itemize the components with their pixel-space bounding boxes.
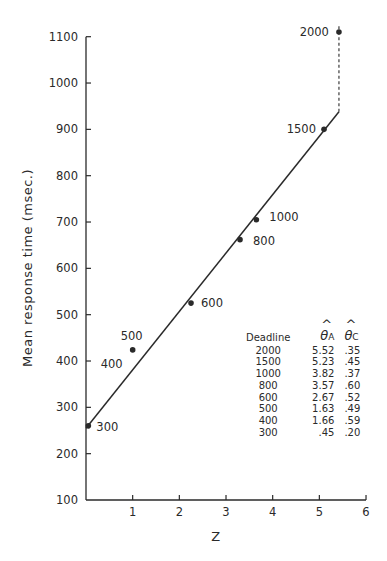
- cell-theta-c: .59: [340, 415, 370, 427]
- table-row: 10003.82.37: [246, 368, 370, 380]
- theta-hat-c: θ: [344, 330, 352, 342]
- table-body: 20005.52.35 15005.23.45 10003.82.37 8003…: [246, 345, 370, 439]
- cell-theta-c: .49: [340, 403, 370, 415]
- point-label-1500: 1500: [287, 122, 316, 136]
- cell-deadline: 500: [246, 403, 290, 415]
- data-point-600: [188, 300, 194, 306]
- y-axis-title: Mean response time (msec.): [20, 169, 35, 367]
- point-label-600: 600: [201, 296, 223, 310]
- cell-deadline: 400: [246, 415, 290, 427]
- y-tick-label: 100: [56, 493, 78, 507]
- table-row: 5001.63.49: [246, 403, 370, 415]
- y-tick-label: 300: [56, 400, 78, 414]
- point-label-2000: 2000: [300, 25, 329, 39]
- cell-theta-a: 3.57: [290, 380, 340, 392]
- x-tick-label: 6: [362, 505, 369, 519]
- y-tick-label: 1000: [49, 76, 78, 90]
- data-point-1500: [321, 127, 327, 133]
- cell-theta-a: 3.82: [290, 368, 340, 380]
- cell-theta-a: 5.52: [290, 345, 340, 357]
- table-row: 20005.52.35: [246, 345, 370, 357]
- theta-hat-a: θ: [320, 330, 328, 342]
- point-label-300: 300: [96, 420, 118, 434]
- data-point-2000: [336, 29, 342, 35]
- cell-deadline: 1500: [246, 356, 290, 368]
- data-point-1000: [254, 217, 260, 223]
- cell-deadline: 600: [246, 392, 290, 404]
- y-tick-label: 800: [56, 169, 78, 183]
- theta-c-subscript: C: [352, 332, 358, 342]
- chart-canvas: 1002003004005006007008009001000110012345…: [0, 0, 387, 561]
- x-tick-label: 3: [222, 505, 229, 519]
- cell-theta-a: 2.67: [290, 392, 340, 404]
- table-row: 4001.66.59: [246, 415, 370, 427]
- point-label-500: 500: [121, 329, 143, 343]
- header-theta-c: θC: [340, 330, 370, 345]
- parameter-table: Deadline θA θC 20005.52.35 15005.23.45 1…: [246, 330, 370, 438]
- x-tick-label: 1: [129, 505, 136, 519]
- y-tick-label: 900: [56, 122, 78, 136]
- cell-theta-a: 1.66: [290, 415, 340, 427]
- point-label-800: 800: [253, 234, 275, 248]
- x-tick-label: 4: [269, 505, 276, 519]
- point-label-400: 400: [101, 357, 123, 371]
- x-tick-label: 5: [316, 505, 323, 519]
- y-tick-label: 1100: [49, 30, 78, 44]
- cell-theta-c: .52: [340, 392, 370, 404]
- table-row: 6002.67.52: [246, 392, 370, 404]
- table-header-row: Deadline θA θC: [246, 330, 370, 345]
- x-axis-title: Z: [211, 529, 220, 544]
- cell-theta-c: .20: [340, 427, 370, 439]
- point-label-1000: 1000: [269, 210, 298, 224]
- header-deadline: Deadline: [246, 330, 290, 345]
- cell-theta-a: 5.23: [290, 356, 340, 368]
- y-tick-label: 700: [56, 215, 78, 229]
- cell-theta-c: .35: [340, 345, 370, 357]
- cell-theta-c: .45: [340, 356, 370, 368]
- cell-deadline: 1000: [246, 368, 290, 380]
- cell-theta-a: .45: [290, 427, 340, 439]
- y-tick-label: 600: [56, 261, 78, 275]
- table-row: 15005.23.45: [246, 356, 370, 368]
- table-row: 300.45.20: [246, 427, 370, 439]
- data-point-300: [86, 423, 92, 429]
- x-tick-label: 2: [176, 505, 183, 519]
- data-point-800: [237, 237, 243, 243]
- cell-deadline: 800: [246, 380, 290, 392]
- y-tick-label: 400: [56, 354, 78, 368]
- cell-theta-c: .37: [340, 368, 370, 380]
- y-tick-label: 200: [56, 447, 78, 461]
- theta-a-subscript: A: [328, 332, 334, 342]
- data-point-500: [130, 347, 136, 353]
- cell-theta-c: .60: [340, 380, 370, 392]
- cell-deadline: 300: [246, 427, 290, 439]
- y-tick-label: 500: [56, 308, 78, 322]
- header-theta-a: θA: [290, 330, 340, 345]
- cell-deadline: 2000: [246, 345, 290, 357]
- table-row: 8003.57.60: [246, 380, 370, 392]
- cell-theta-a: 1.63: [290, 403, 340, 415]
